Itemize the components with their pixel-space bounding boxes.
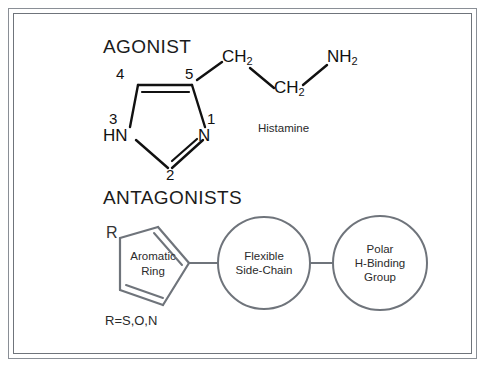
nh2-subscript: 2 — [352, 55, 358, 67]
histamine-side-chain-bonds — [197, 62, 327, 88]
bond-ar-r-top — [120, 227, 158, 238]
aromatic-ring-line1: Aromatic — [122, 249, 184, 264]
histamine-label: Histamine — [258, 122, 309, 134]
flexible-side-chain-line1: Flexible — [214, 249, 314, 263]
aromatic-ring-text: Aromatic Ring — [122, 249, 184, 279]
polar-h-binding-group-text: Polar H-Binding Group — [330, 242, 430, 284]
flexible-side-chain-line2: Side-Chain — [214, 263, 314, 277]
atom-label-ch2-alpha: CH2 — [222, 47, 253, 67]
ch2-beta-subscript: 2 — [299, 86, 305, 98]
ch2-alpha-subscript: 2 — [247, 55, 253, 67]
r-group-definition: R=S,O,N — [105, 313, 157, 328]
atom-label-nh2: NH2 — [327, 47, 358, 67]
atom-label-ch2-beta: CH2 — [274, 78, 305, 98]
nh2-text: NH — [327, 47, 352, 66]
ring-position-2: 2 — [166, 166, 174, 183]
polar-group-line3: Group — [330, 270, 430, 284]
bond-c2-n3 — [136, 140, 168, 168]
bond-c5-ch2a — [197, 62, 222, 80]
r-group-label: R — [106, 224, 118, 242]
imidazole-ring-bonds — [130, 85, 205, 168]
ch2-alpha-text: CH — [222, 47, 247, 66]
ring-position-5: 5 — [185, 65, 193, 82]
bond-n3-c4 — [130, 85, 138, 127]
imidazole-double-bonds — [142, 92, 197, 161]
ch2-beta-text: CH — [274, 78, 299, 97]
atom-label-hn: HN — [103, 126, 128, 146]
flexible-side-chain-text: Flexible Side-Chain — [214, 249, 314, 277]
bond-ch2a-ch2b — [250, 68, 274, 88]
atom-label-n1: N — [198, 126, 210, 146]
ring-position-4: 4 — [116, 65, 124, 82]
ring-position-1: 1 — [207, 110, 215, 127]
polar-group-line1: Polar — [330, 242, 430, 256]
double-bond-ar-bottom-left-inner — [126, 285, 163, 298]
histamine-pharmacophore-figure: AGONIST ANTAGONISTS 4 5 3 1 2 HN N CH2 C… — [0, 0, 485, 367]
bond-ar-bottom-left — [120, 290, 163, 305]
bond-c5-n1 — [192, 85, 205, 127]
polar-group-line2: H-Binding — [330, 256, 430, 270]
agonist-heading: AGONIST — [103, 36, 191, 58]
bond-ch2b-nh2 — [303, 65, 327, 85]
aromatic-ring-line2: Ring — [122, 264, 184, 279]
antagonists-heading: ANTAGONISTS — [103, 187, 242, 209]
ring-position-3: 3 — [109, 110, 117, 127]
